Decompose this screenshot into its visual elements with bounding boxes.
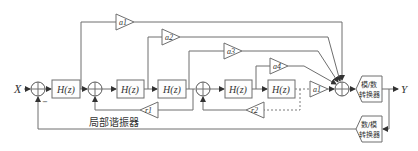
svg-text:转换器: 转换器 [359,90,380,99]
h-block-3: H(z) [158,80,186,98]
h-block-1: H(z) [52,80,80,98]
h-block-4: H(z) [225,80,252,98]
summing-junction-2 [88,82,102,96]
h-block-2: H(z) [117,80,144,98]
summing-junction-1 [31,82,45,96]
gain-a1-final: a1 [310,81,328,97]
gain-a3: a3 [224,43,242,59]
svg-text:r1: r1 [145,106,152,115]
svg-text:a2: a2 [165,33,173,42]
adc-converter: 模/数 转换器 [356,76,382,102]
minus-sign: − [42,98,48,106]
svg-text:转换器: 转换器 [359,130,380,139]
svg-text:H(z): H(z) [162,84,181,96]
h-block-5: H(z) [268,80,295,98]
gain-a2: a2 [162,29,180,45]
svg-text:a4: a4 [273,62,281,71]
svg-text:a3: a3 [227,47,235,56]
resonator-label: 局部谐振器 [89,116,139,128]
svg-text:a1: a1 [119,18,127,27]
dac-converter: 数/模 转换器 [356,116,382,142]
summing-junction-3 [196,82,210,96]
svg-text:H(z): H(z) [120,84,139,96]
svg-text:H(z): H(z) [56,84,75,96]
svg-text:H(z): H(z) [228,84,247,96]
svg-text:r2: r2 [251,106,258,115]
input-label: X [13,82,22,96]
svg-text:模/数: 模/数 [361,80,377,89]
summing-junction-output [335,82,349,96]
gain-r1: r1 [140,102,158,118]
svg-text:H(z): H(z) [271,84,290,96]
svg-text:a1: a1 [313,85,321,94]
output-label: Y [401,83,409,95]
gain-a4: a4 [270,58,288,74]
gain-a1-top: a1 [116,14,134,30]
gain-r2: r2 [246,102,264,118]
svg-text:数/模: 数/模 [361,120,377,129]
block-diagram: X − H(z) a1 H(z) a2 H(z) [0,0,418,151]
